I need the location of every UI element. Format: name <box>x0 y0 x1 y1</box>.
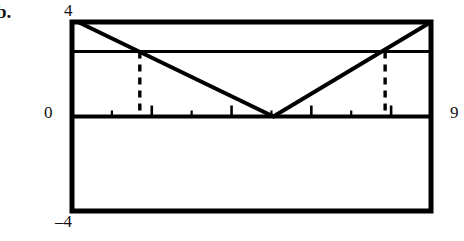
plot-svg <box>0 0 464 241</box>
v-shaped-curve <box>78 22 431 117</box>
graph-figure: b. 4 0 –4 9 <box>0 0 464 241</box>
